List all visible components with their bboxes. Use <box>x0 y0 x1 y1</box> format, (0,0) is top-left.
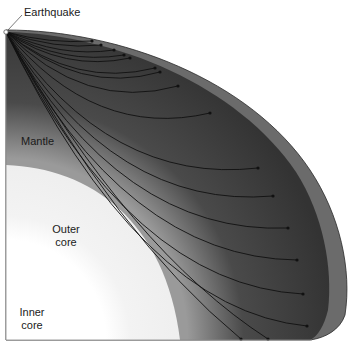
earthquake-marker-icon <box>4 30 8 34</box>
earthquake-label: Earthquake <box>24 6 80 19</box>
earth-cross-section-diagram <box>0 0 354 345</box>
inner-core-label-line2: core <box>17 319 47 332</box>
inner-core-label-line1: Inner <box>17 306 47 319</box>
inner-core-label: Inner core <box>17 306 47 332</box>
outer-core-label-line2: core <box>46 236 86 249</box>
outer-core-label-line1: Outer <box>46 223 86 236</box>
outer-core-label: Outer core <box>46 223 86 249</box>
earthquake-leader-line <box>8 15 22 30</box>
mantle-label: Mantle <box>21 135 54 148</box>
